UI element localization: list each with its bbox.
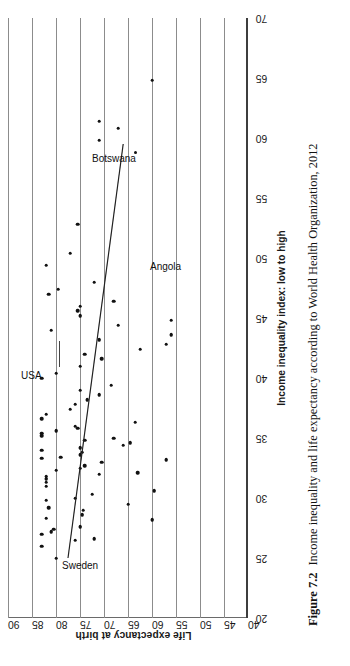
trend-line	[8, 18, 248, 618]
plot-block: Life expectancy at birth 404550556065707…	[8, 0, 300, 666]
figure-caption-text: Income inequality and life expectancy ac…	[306, 143, 320, 565]
annotation-sweden: Sweden	[62, 560, 98, 571]
plot-area: SwedenUSABotswanaAngola	[8, 18, 248, 618]
x-tick-label: 35	[256, 433, 268, 444]
annotation-leader-usa	[59, 341, 60, 367]
y-tick-label: 85	[32, 619, 54, 629]
x-tick-label: 20	[256, 613, 268, 624]
rotated-figure-frame: Life expectancy at birth 404550556065707…	[0, 0, 350, 666]
y-tick-label: 50	[200, 619, 222, 629]
figure-page: Life expectancy at birth 404550556065707…	[0, 0, 350, 666]
y-tick-label: 65	[128, 619, 150, 629]
gridline	[248, 18, 249, 618]
x-tick-label: 30	[256, 493, 268, 504]
y-tick-label: 60	[152, 619, 174, 629]
figure-number: Figure 7.2	[306, 573, 320, 626]
y-tick-label: 45	[224, 619, 246, 629]
y-tick-label: 55	[176, 619, 198, 629]
x-tick-label: 55	[256, 193, 268, 204]
y-tick-label: 75	[80, 619, 102, 629]
annotation-bullet-botswana	[134, 151, 137, 154]
x-tick-label: 45	[256, 313, 268, 324]
annotation-angola: Angola	[150, 261, 181, 272]
x-tick-label: 70	[256, 13, 268, 24]
y-tick-label: 90	[8, 619, 30, 629]
figure-caption: Figure 7.2Income inequality and life exp…	[306, 14, 321, 626]
x-tick-label: 25	[256, 553, 268, 564]
y-tick-label: 70	[104, 619, 126, 629]
annotation-botswana: Botswana	[92, 153, 136, 164]
x-tick-label: 65	[256, 73, 268, 84]
x-tick-label: 60	[256, 133, 268, 144]
y-axis-ticks: 4045505560657075808590	[8, 624, 300, 650]
annotation-usa: USA	[21, 370, 42, 381]
x-axis-ticks: 2025303540455055606570	[254, 18, 270, 618]
x-axis-label: Income inequality index: low to high	[276, 18, 287, 618]
figure: Life expectancy at birth 404550556065707…	[0, 0, 350, 666]
x-tick-label: 40	[256, 373, 268, 384]
x-tick-label: 50	[256, 253, 268, 264]
y-tick-label: 80	[56, 619, 78, 629]
